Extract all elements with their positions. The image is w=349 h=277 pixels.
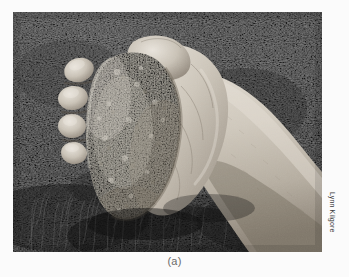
- figure-container: Lynn Kilgore (a): [0, 0, 349, 277]
- photograph-image: [13, 12, 322, 252]
- photograph: [13, 12, 322, 252]
- figure-caption: (a): [0, 255, 349, 267]
- photographer-credit: Lynn Kilgore: [326, 192, 338, 258]
- film-grain: [13, 12, 322, 252]
